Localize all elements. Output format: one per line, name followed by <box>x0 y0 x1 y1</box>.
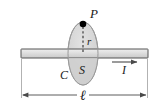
figure-canvas: P r C S I ℓ <box>0 0 166 111</box>
label-point-P: P <box>89 6 98 21</box>
label-radius-r: r <box>87 35 92 47</box>
physics-figure: P r C S I ℓ <box>0 0 166 111</box>
label-length-ell: ℓ <box>80 88 86 103</box>
label-surface-S: S <box>79 63 85 77</box>
current-carrying-rod <box>21 49 148 58</box>
label-curve-C: C <box>60 68 69 82</box>
field-point-P-dot <box>80 21 87 28</box>
